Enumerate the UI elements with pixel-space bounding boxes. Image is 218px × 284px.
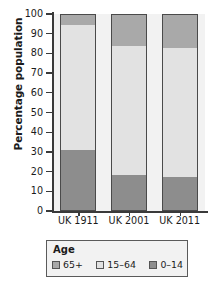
y-tick (46, 151, 53, 152)
legend: Age 65+15–640–14 (46, 240, 188, 277)
legend-item-label: 65+ (63, 260, 83, 269)
y-tick-label: 50 (0, 108, 43, 118)
y-tick-label: 70 (0, 68, 43, 78)
bar-segment-0-14 (61, 150, 95, 210)
bar-uk-2011 (162, 14, 198, 211)
bar-segment-0-14 (112, 175, 146, 210)
plot-area (53, 14, 205, 211)
y-tick-label: 0 (0, 206, 43, 216)
y-tick (46, 92, 53, 93)
legend-item-65plus[interactable]: 65+ (52, 260, 83, 269)
bar-uk-1911 (60, 14, 96, 211)
y-tick-label: 40 (0, 127, 43, 137)
y-tick (46, 112, 53, 113)
bar-segment-0-14 (163, 177, 197, 210)
bar-segment-15-64 (61, 25, 95, 150)
legend-swatch-icon (52, 261, 60, 269)
y-tick (46, 191, 53, 192)
y-tick-label: 90 (0, 29, 43, 39)
bars-layer (53, 14, 205, 211)
legend-item-15-64[interactable]: 15–64 (96, 260, 136, 269)
y-tick-label: 80 (0, 48, 43, 58)
y-tick (46, 33, 53, 34)
legend-item-0-14[interactable]: 0–14 (149, 260, 183, 269)
y-tick-label: 60 (0, 88, 43, 98)
legend-swatch-icon (149, 261, 157, 269)
y-tick (46, 210, 53, 211)
y-tick (46, 53, 53, 54)
y-tick (46, 132, 53, 133)
legend-item-label: 15–64 (107, 260, 136, 269)
bar-segment-65plus (61, 15, 95, 25)
bar-segment-65plus (112, 15, 146, 46)
legend-items: 65+15–640–14 (52, 260, 183, 269)
y-tick-label: 10 (0, 186, 43, 196)
y-tick (46, 13, 53, 14)
y-tick-label: 100 (0, 9, 43, 19)
y-tick (46, 72, 53, 73)
y-tick (46, 171, 53, 172)
bar-segment-15-64 (112, 46, 146, 175)
bar-segment-15-64 (163, 48, 197, 177)
y-tick-label: 30 (0, 147, 43, 157)
legend-swatch-icon (96, 261, 104, 269)
bar-segment-65plus (163, 15, 197, 48)
chart-figure: Percentage population 010203040506070809… (0, 0, 218, 284)
legend-title: Age (53, 244, 75, 255)
legend-item-label: 0–14 (160, 260, 183, 269)
bar-uk-2001 (111, 14, 147, 211)
x-axis-label: UK 2011 (146, 215, 214, 226)
y-tick-label: 20 (0, 167, 43, 177)
